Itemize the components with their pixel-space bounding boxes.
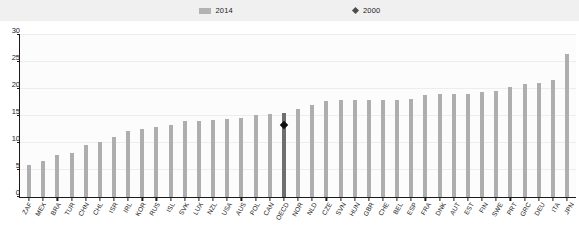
y-axis-tick-label: 25 bbox=[0, 53, 20, 62]
bar bbox=[239, 118, 243, 197]
legend-item-2014: 2014 bbox=[199, 7, 234, 15]
bar bbox=[154, 127, 158, 197]
bar-group bbox=[22, 35, 36, 197]
x-axis-tick-label: ZAF bbox=[21, 201, 33, 216]
bar bbox=[55, 155, 59, 197]
bar bbox=[523, 84, 527, 197]
bar-group bbox=[64, 35, 78, 197]
x-axis-tick-mark bbox=[496, 198, 497, 202]
bar-group bbox=[164, 35, 178, 197]
x-axis-tick-label: BEL bbox=[391, 201, 403, 216]
x-axis-tick-label: RUS bbox=[148, 201, 161, 217]
bar bbox=[126, 131, 130, 197]
bar bbox=[140, 129, 144, 197]
bar bbox=[466, 94, 470, 197]
bar bbox=[381, 100, 385, 197]
bar bbox=[169, 125, 173, 197]
bar-group bbox=[319, 35, 333, 197]
x-axis-tick-label: CHL bbox=[92, 201, 105, 216]
x-axis-tick-mark bbox=[28, 198, 29, 202]
legend-label-2000: 2000 bbox=[363, 7, 381, 15]
bar-group bbox=[79, 35, 93, 197]
bar-group bbox=[121, 35, 135, 197]
bar bbox=[537, 83, 541, 197]
bar-group bbox=[532, 35, 546, 197]
x-axis-tick-label: CHN bbox=[77, 201, 90, 217]
x-axis-tick-label: USA bbox=[220, 201, 233, 217]
bar bbox=[254, 115, 258, 197]
bar bbox=[339, 100, 343, 197]
x-axis-tick-label: IRL bbox=[122, 201, 133, 214]
x-axis-tick-label: NLD bbox=[306, 201, 319, 216]
bar-group bbox=[348, 35, 362, 197]
y-axis-tick-label: 10 bbox=[0, 134, 20, 143]
bar-group bbox=[461, 35, 475, 197]
bar-group bbox=[404, 35, 418, 197]
bar bbox=[438, 94, 442, 197]
x-axis-tick-label: TUR bbox=[63, 201, 76, 217]
bar-group bbox=[178, 35, 192, 197]
bar bbox=[494, 91, 498, 197]
x-axis-tick-label: SVN bbox=[334, 201, 347, 217]
bar bbox=[310, 105, 314, 197]
x-axis-tick-label: SVK bbox=[177, 201, 190, 216]
x-axis-tick-label: CHE bbox=[376, 201, 389, 217]
bar-group bbox=[503, 35, 517, 197]
chart-bars bbox=[20, 35, 576, 197]
x-axis-tick-label: DEU bbox=[533, 201, 546, 217]
bar-group bbox=[433, 35, 447, 197]
bar bbox=[480, 92, 484, 197]
bar bbox=[197, 121, 201, 197]
bar bbox=[70, 153, 74, 197]
bar-group bbox=[149, 35, 163, 197]
bar-group bbox=[517, 35, 531, 197]
bar-group bbox=[475, 35, 489, 197]
bar-group bbox=[305, 35, 319, 197]
bar-group bbox=[418, 35, 432, 197]
bar-group bbox=[376, 35, 390, 197]
bar bbox=[508, 87, 512, 197]
x-axis-tick-mark bbox=[156, 198, 157, 202]
bar bbox=[211, 120, 215, 197]
x-axis-tick-label: FRA bbox=[420, 201, 433, 216]
x-axis-tick-label: AUT bbox=[448, 201, 461, 216]
legend-label-2014: 2014 bbox=[216, 7, 234, 15]
x-axis-tick-label: GRC bbox=[519, 201, 533, 217]
x-axis-tick-mark bbox=[552, 198, 553, 202]
bar-group bbox=[362, 35, 376, 197]
x-axis-tick-mark bbox=[71, 198, 72, 202]
bar-group bbox=[36, 35, 50, 197]
x-axis-tick-label: NOR bbox=[291, 201, 305, 217]
bar-group bbox=[135, 35, 149, 197]
y-axis-tick-label: 15 bbox=[0, 107, 20, 116]
x-axis-tick-label: OECD bbox=[274, 201, 290, 221]
y-axis-tick-label: 30 bbox=[0, 26, 20, 35]
x-axis-tick-label: ISL bbox=[165, 201, 176, 213]
bar-group bbox=[263, 35, 277, 197]
x-axis-tick-label: GBR bbox=[362, 201, 375, 217]
x-axis-tick-label: JPN bbox=[562, 201, 574, 216]
bar bbox=[112, 137, 116, 197]
x-axis-tick-label: BRA bbox=[49, 201, 62, 217]
x-axis-tick-label: LUX bbox=[192, 201, 205, 216]
bar bbox=[84, 145, 88, 197]
bar bbox=[225, 119, 229, 197]
bar bbox=[353, 100, 357, 197]
x-axis-tick-label: KOR bbox=[134, 201, 147, 217]
legend-item-2000: 2000 bbox=[353, 7, 381, 15]
bar bbox=[452, 94, 456, 197]
bar-group bbox=[234, 35, 248, 197]
x-axis-tick-label: DNK bbox=[433, 201, 446, 217]
x-axis-tick-label: POL bbox=[248, 201, 261, 216]
y-axis-tick-label: 5 bbox=[0, 161, 20, 170]
bar bbox=[98, 142, 102, 197]
x-axis-tick-mark bbox=[43, 198, 44, 202]
bar bbox=[27, 165, 31, 197]
x-axis-tick-mark bbox=[566, 198, 567, 202]
x-axis-tick-label: NZL bbox=[206, 201, 218, 216]
bar-group bbox=[333, 35, 347, 197]
bar bbox=[268, 114, 272, 197]
bar-group bbox=[107, 35, 121, 197]
bar bbox=[296, 109, 300, 197]
x-axis-tick-label: MEX bbox=[34, 201, 47, 217]
